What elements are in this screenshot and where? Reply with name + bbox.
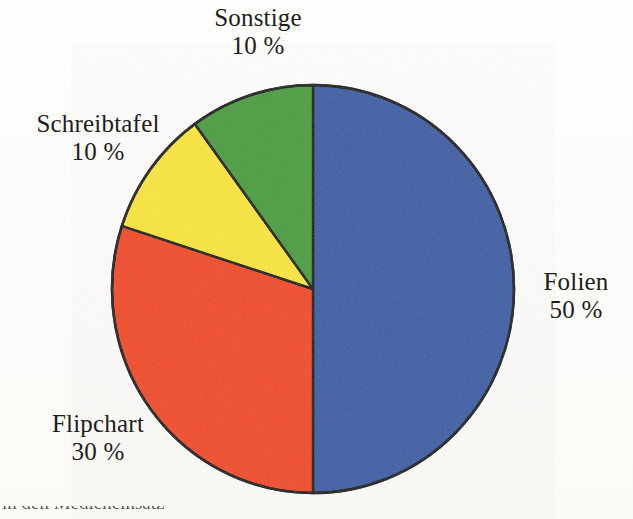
- pie-label-schreibtafel-value: 10 %: [8, 138, 188, 166]
- pie-label-schreibtafel-name: Schreibtafel: [8, 110, 188, 138]
- pie-label-sonstige: Sonstige 10 %: [148, 4, 368, 60]
- pie-label-folien-name: Folien: [520, 268, 632, 296]
- pie-slice-folien[interactable]: [313, 85, 514, 493]
- pie-label-schreibtafel: Schreibtafel 10 %: [8, 110, 188, 166]
- pie-label-folien-value: 50 %: [520, 296, 632, 324]
- pie-chart-figure: Sonstige 10 % Schreibtafel 10 % Flipchar…: [0, 0, 633, 519]
- figure-caption-clipped: in den Medieneinsatz: [0, 506, 633, 519]
- pie-label-flipchart-value: 30 %: [18, 438, 178, 466]
- figure-caption-text: in den Medieneinsatz: [2, 506, 165, 514]
- pie-label-flipchart: Flipchart 30 %: [18, 410, 178, 466]
- pie-label-sonstige-name: Sonstige: [148, 4, 368, 32]
- pie-label-flipchart-name: Flipchart: [18, 410, 178, 438]
- pie-label-folien: Folien 50 %: [520, 268, 632, 324]
- pie-label-sonstige-value: 10 %: [148, 32, 368, 60]
